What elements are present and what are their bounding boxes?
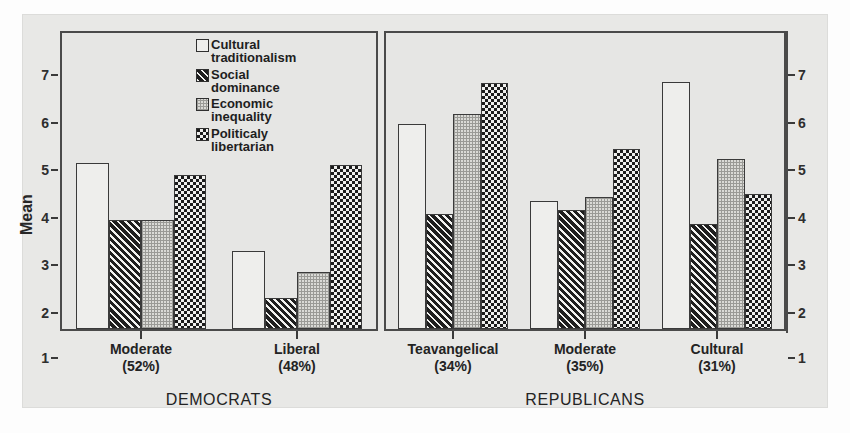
bar-diagonal-hatch bbox=[109, 220, 142, 329]
legend-swatch-diagonal-hatch bbox=[196, 69, 209, 82]
y-tick-mark bbox=[788, 264, 795, 266]
bar-open bbox=[76, 163, 109, 329]
y-tick-mark bbox=[51, 312, 58, 314]
legend-item: Politicaly libertarian bbox=[196, 127, 324, 154]
panel-republicans bbox=[384, 31, 786, 331]
bar-open bbox=[662, 82, 690, 329]
y-tick-mark bbox=[51, 74, 58, 76]
bar-checkerboard bbox=[481, 83, 509, 329]
y-tick-label: 1 bbox=[41, 350, 49, 366]
bar-checkerboard bbox=[613, 149, 641, 329]
y-tick-label: 7 bbox=[798, 67, 806, 83]
bar-fine-dots bbox=[585, 197, 613, 329]
bar-cluster bbox=[530, 33, 640, 329]
bar-open bbox=[530, 201, 558, 329]
legend-item: Cultural traditionalism bbox=[196, 38, 324, 65]
bar-diagonal-hatch bbox=[690, 224, 718, 329]
y-axis-title: Mean bbox=[18, 194, 36, 235]
bar-open bbox=[398, 124, 426, 329]
y-tick-label: 4 bbox=[798, 210, 806, 226]
bar-group-republicans bbox=[386, 33, 784, 329]
category-percent: (34%) bbox=[383, 358, 523, 375]
bar-diagonal-hatch bbox=[265, 298, 298, 329]
x-tick-mark bbox=[452, 331, 454, 339]
legend: Cultural traditionalismSocial dominanceE… bbox=[196, 38, 324, 156]
y-tick-mark bbox=[788, 122, 795, 124]
category-percent: (31%) bbox=[647, 358, 787, 375]
y-tick-label: 4 bbox=[41, 210, 49, 226]
y-tick-label: 2 bbox=[798, 305, 806, 321]
bar-checkerboard bbox=[745, 194, 773, 329]
legend-label: Cultural traditionalism bbox=[211, 38, 296, 65]
bar-fine-dots bbox=[141, 220, 174, 329]
y-tick-mark bbox=[788, 74, 795, 76]
y-tick-mark bbox=[788, 217, 795, 219]
legend-swatch-checkerboard bbox=[196, 128, 209, 141]
bar-fine-dots bbox=[717, 159, 745, 329]
x-axis-category-label: Liberal(48%) bbox=[227, 341, 367, 374]
legend-label: Economic inequality bbox=[211, 97, 273, 124]
category-percent: (52%) bbox=[71, 358, 211, 375]
y-tick-mark bbox=[788, 357, 795, 359]
x-axis-category-label: Teavangelical(34%) bbox=[383, 341, 523, 374]
y-tick-mark bbox=[788, 169, 795, 171]
bar-cluster bbox=[662, 33, 772, 329]
y-tick-mark bbox=[51, 264, 58, 266]
y-tick-label: 5 bbox=[798, 162, 806, 178]
y-tick-label: 3 bbox=[41, 257, 49, 273]
x-tick-mark bbox=[716, 331, 718, 339]
y-tick-mark bbox=[788, 312, 795, 314]
bar-diagonal-hatch bbox=[426, 214, 454, 329]
bar-open bbox=[232, 251, 265, 329]
y-tick-label: 1 bbox=[798, 350, 806, 366]
category-percent: (48%) bbox=[227, 358, 367, 375]
y-tick-mark bbox=[51, 217, 58, 219]
y-tick-label: 6 bbox=[41, 115, 49, 131]
legend-label: Politicaly libertarian bbox=[211, 127, 274, 154]
bar-checkerboard bbox=[330, 165, 363, 329]
legend-item: Social dominance bbox=[196, 68, 324, 95]
y-tick-mark bbox=[51, 169, 58, 171]
bar-cluster bbox=[76, 33, 206, 329]
category-name: Teavangelical bbox=[408, 341, 499, 357]
x-tick-mark bbox=[296, 331, 298, 339]
y-tick-label: 7 bbox=[41, 67, 49, 83]
x-axis-category-label: Moderate(35%) bbox=[515, 341, 655, 374]
bar-cluster bbox=[398, 33, 508, 329]
chart-figure: 7654321 Mean 7654321 Moderate(52%)Libera… bbox=[0, 0, 850, 433]
x-axis-category-label: Moderate(52%) bbox=[71, 341, 211, 374]
category-name: Liberal bbox=[274, 341, 320, 357]
panel-title-republicans: REPUBLICANS bbox=[384, 391, 786, 409]
bar-checkerboard bbox=[174, 175, 207, 329]
y-tick-mark bbox=[51, 357, 58, 359]
legend-item: Economic inequality bbox=[196, 97, 324, 124]
legend-label: Social dominance bbox=[211, 68, 280, 95]
x-axis-category-label: Cultural(31%) bbox=[647, 341, 787, 374]
category-name: Moderate bbox=[110, 341, 172, 357]
y-axis-left: 7654321 bbox=[24, 31, 58, 331]
x-tick-mark bbox=[140, 331, 142, 339]
bar-diagonal-hatch bbox=[558, 210, 586, 329]
y-tick-label: 3 bbox=[798, 257, 806, 273]
legend-swatch-open bbox=[196, 39, 209, 52]
y-tick-label: 5 bbox=[41, 162, 49, 178]
legend-swatch-fine-dots bbox=[196, 98, 209, 111]
y-tick-mark bbox=[51, 122, 58, 124]
bar-fine-dots bbox=[297, 272, 330, 329]
category-name: Moderate bbox=[554, 341, 616, 357]
y-tick-label: 2 bbox=[41, 305, 49, 321]
panel-title-democrats: DEMOCRATS bbox=[60, 391, 378, 409]
category-name: Cultural bbox=[691, 341, 744, 357]
y-axis-right: 7654321 bbox=[788, 31, 822, 331]
bar-fine-dots bbox=[453, 114, 481, 329]
x-tick-mark bbox=[584, 331, 586, 339]
category-percent: (35%) bbox=[515, 358, 655, 375]
y-tick-label: 6 bbox=[798, 115, 806, 131]
